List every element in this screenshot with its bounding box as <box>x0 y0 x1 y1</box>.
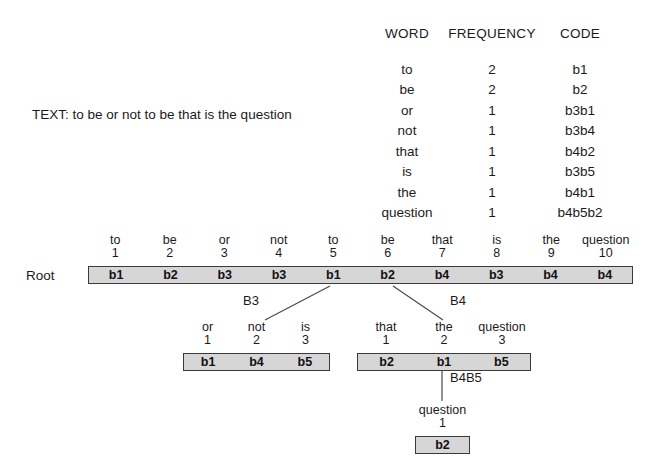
root-slot-header-2: be 2 <box>143 234 198 260</box>
cell-code: b1 <box>540 60 620 81</box>
cell-code: b2 <box>540 81 620 102</box>
root-code-cell-5: b1 <box>306 269 360 282</box>
slot-index: 1 <box>88 247 143 260</box>
root-code-box: b1 b2 b3 b3 b1 b2 b4 b3 b4 b4 <box>88 266 633 284</box>
slot-index: 2 <box>143 247 198 260</box>
root-slot-header-7: that 7 <box>415 234 470 260</box>
slot-index: 7 <box>415 247 470 260</box>
b3-slot-header-3: is 3 <box>281 321 330 347</box>
table-row: question 1 b4b5b2 <box>370 204 620 225</box>
cell-frequency: 2 <box>444 81 540 102</box>
table-row: not 1 b3b4 <box>370 122 620 143</box>
table-row: to 2 b1 <box>370 60 620 81</box>
word-frequency-code-table: WORD FREQUENCY CODE to 2 b1 be 2 b2 or 1… <box>370 26 620 224</box>
b4-slot-header-3: question 3 <box>473 321 531 347</box>
b3-code-box: b1 b4 b5 <box>183 353 330 371</box>
slot-index: 3 <box>473 334 531 347</box>
cell-code: b4b1 <box>540 183 620 204</box>
table-row: is 1 b3b5 <box>370 163 620 184</box>
root-code-cell-4: b3 <box>252 269 306 282</box>
b4-code-cell-3: b5 <box>473 356 530 369</box>
root-code-cell-3: b3 <box>198 269 252 282</box>
table-row: the 1 b4b1 <box>370 183 620 204</box>
table-header-row: WORD FREQUENCY CODE <box>370 26 620 60</box>
slot-index: 5 <box>306 247 361 260</box>
root-slot-header-3: or 3 <box>197 234 252 260</box>
cell-word: be <box>370 81 444 102</box>
cell-code: b3b5 <box>540 163 620 184</box>
slot-index: 6 <box>361 247 416 260</box>
cell-word: question <box>370 204 444 225</box>
b3-code-cell-1: b1 <box>184 356 232 369</box>
slot-index: 10 <box>579 247 634 260</box>
cell-frequency: 1 <box>444 101 540 122</box>
root-node-label: Root <box>26 268 55 283</box>
root-code-cell-9: b4 <box>523 269 577 282</box>
b4-code-box: b2 b1 b5 <box>357 353 531 371</box>
b4b5-code-cell-1: b2 <box>416 439 469 452</box>
slot-index: 1 <box>183 334 232 347</box>
table-row: or 1 b3b1 <box>370 101 620 122</box>
cell-frequency: 2 <box>444 60 540 81</box>
edge-root-to-b4 <box>393 286 443 320</box>
cell-code: b3b1 <box>540 101 620 122</box>
b4-code-cell-1: b2 <box>358 356 415 369</box>
slot-index: 2 <box>232 334 281 347</box>
slot-index: 1 <box>357 334 415 347</box>
cell-word: not <box>370 122 444 143</box>
b3-slot-header-2: not 2 <box>232 321 281 347</box>
b3-code-cell-3: b5 <box>281 356 329 369</box>
b3-slot-header-1: or 1 <box>183 321 232 347</box>
root-code-cell-6: b2 <box>360 269 414 282</box>
slot-index: 2 <box>415 334 473 347</box>
b3-code-cell-2: b4 <box>232 356 280 369</box>
root-code-cell-10: b4 <box>578 269 632 282</box>
b4-slot-header-1: that 1 <box>357 321 415 347</box>
cell-word: to <box>370 60 444 81</box>
root-code-cell-8: b3 <box>469 269 523 282</box>
cell-code: b3b4 <box>540 122 620 143</box>
diagram-canvas: WORD FREQUENCY CODE to 2 b1 be 2 b2 or 1… <box>0 0 669 473</box>
cell-code: b4b5b2 <box>540 204 620 225</box>
b4-code-cell-2: b1 <box>415 356 472 369</box>
b4b5-slot-header-1: question 1 <box>400 404 485 430</box>
root-slot-header-1: to 1 <box>88 234 143 260</box>
table-row: that 1 b4b2 <box>370 142 620 163</box>
slot-index: 3 <box>281 334 330 347</box>
cell-word: is <box>370 163 444 184</box>
b3-branch-label: B3 <box>243 293 259 308</box>
cell-word: that <box>370 142 444 163</box>
edge-root-to-b3 <box>265 286 330 320</box>
root-slot-header-8: is 8 <box>470 234 525 260</box>
cell-frequency: 1 <box>444 163 540 184</box>
b4b5-code-box: b2 <box>415 436 470 454</box>
root-slot-header-10: question 10 <box>579 234 634 260</box>
slot-index: 1 <box>400 417 485 430</box>
slot-index: 8 <box>470 247 525 260</box>
slot-index: 4 <box>252 247 307 260</box>
root-code-cell-2: b2 <box>143 269 197 282</box>
root-slot-header-9: the 9 <box>524 234 579 260</box>
b4b5-branch-label: B4B5 <box>450 370 482 385</box>
cell-frequency: 1 <box>444 142 540 163</box>
cell-word: the <box>370 183 444 204</box>
cell-code: b4b2 <box>540 142 620 163</box>
root-code-cell-7: b4 <box>415 269 469 282</box>
root-slot-header-5: to 5 <box>306 234 361 260</box>
root-slot-header-6: be 6 <box>361 234 416 260</box>
cell-frequency: 1 <box>444 183 540 204</box>
source-text-line: TEXT: to be or not to be that is the que… <box>32 107 292 122</box>
root-code-cell-1: b1 <box>89 269 143 282</box>
cell-frequency: 1 <box>444 204 540 225</box>
slot-index: 9 <box>524 247 579 260</box>
b4-branch-label: B4 <box>450 293 466 308</box>
cell-frequency: 1 <box>444 122 540 143</box>
column-header-word: WORD <box>370 26 444 60</box>
column-header-code: CODE <box>540 26 620 60</box>
b4-slot-header-2: the 2 <box>415 321 473 347</box>
column-header-frequency: FREQUENCY <box>444 26 540 60</box>
table-row: be 2 b2 <box>370 81 620 102</box>
slot-index: 3 <box>197 247 252 260</box>
root-slot-header-4: not 4 <box>252 234 307 260</box>
cell-word: or <box>370 101 444 122</box>
